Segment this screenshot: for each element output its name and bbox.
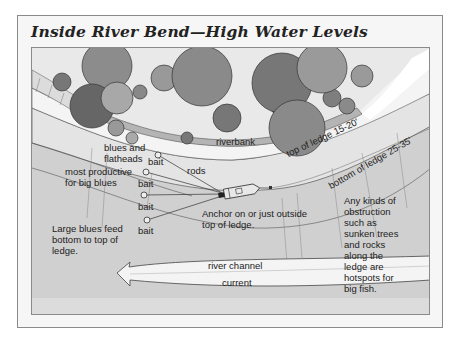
label-most-productive-1: most productive (65, 166, 132, 177)
label-blues-and-flatheads-1: blues and (104, 142, 145, 153)
label-bait-2: bait (138, 178, 153, 189)
label-obstruction: Any kinds of obstruction such as sunken … (344, 195, 398, 294)
figure-title: Inside River Bend—High Water Levels (31, 22, 368, 41)
label-current: current (222, 277, 252, 288)
label-bait-1: bait (148, 156, 163, 167)
label-anchor-2: top of ledge. (202, 219, 254, 230)
label-large-blues-2: bottom to top of (52, 234, 118, 245)
label-river-channel: river channel (208, 260, 262, 271)
label-most-productive-2: for big blues (65, 177, 117, 188)
label-blues-and-flatheads-2: flatheads (104, 153, 143, 164)
label-riverbank: riverbank (216, 136, 255, 147)
label-anchor-1: Anchor on or just outside (202, 208, 307, 219)
label-rods: rods (187, 165, 205, 176)
river-bend-diagram: riverbank blues and flatheads most produ… (31, 47, 430, 315)
label-bait-3: bait (138, 201, 153, 212)
label-bait-4: bait (138, 225, 153, 236)
label-large-blues-1: Large blues feed (52, 223, 123, 234)
label-large-blues-3: ledge. (52, 245, 78, 256)
